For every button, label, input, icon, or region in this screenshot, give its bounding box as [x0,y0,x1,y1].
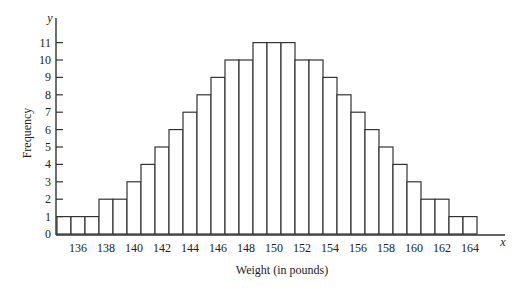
histogram-bar [379,147,393,234]
histogram-bar [141,164,155,234]
histogram-bar [253,43,267,234]
x-tick-label: 156 [349,241,367,255]
x-tick-label: 142 [153,241,171,255]
x-axis-title: Weight (in pounds) [236,263,328,277]
histogram-bar [337,95,351,234]
histogram-bar [365,130,379,234]
histogram-bar [281,43,295,234]
histogram-chart: 01234567891011 1361381401421441461481501… [0,0,528,293]
histogram-bar [393,164,407,234]
histogram-bar [57,217,71,234]
x-axis-ticks: 1361381401421441461481501521541561581601… [69,241,479,255]
x-tick-label: 136 [69,241,87,255]
histogram-bar [421,199,435,234]
x-tick-label: 154 [321,241,339,255]
histogram-bar [323,77,337,234]
y-tick-label: 8 [45,88,51,102]
y-tick-label: 9 [45,70,51,84]
y-tick-label: 3 [45,175,51,189]
y-tick-label: 11 [39,36,51,50]
x-tick-label: 148 [237,241,255,255]
y-axis-ticks: 01234567891011 [39,36,63,241]
histogram-bar [99,199,113,234]
histogram-bar [351,112,365,234]
y-tick-label: 0 [45,227,51,241]
y-axis-title: Frequency [20,108,34,159]
histogram-bar [309,60,323,234]
histogram-bar [463,217,477,234]
y-tick-label: 10 [39,53,51,67]
y-tick-label: 1 [45,210,51,224]
y-tick-label: 5 [45,140,51,154]
x-tick-label: 158 [377,241,395,255]
histogram-bar [449,217,463,234]
histogram-bar [225,60,239,234]
histogram-bar [407,182,421,234]
histogram-bar [295,60,309,234]
x-axis-variable-label: x [499,235,506,249]
x-tick-label: 152 [293,241,311,255]
x-tick-label: 138 [97,241,115,255]
histogram-bar [71,217,85,234]
y-tick-label: 2 [45,192,51,206]
histogram-bar [267,43,281,234]
histogram-bar [169,130,183,234]
x-tick-label: 162 [433,241,451,255]
x-tick-label: 164 [461,241,479,255]
x-tick-label: 144 [181,241,199,255]
histogram-bar [435,199,449,234]
y-tick-label: 4 [45,157,51,171]
histogram-bar [113,199,127,234]
histogram-bar [183,112,197,234]
x-tick-label: 160 [405,241,423,255]
histogram-bar [155,147,169,234]
histogram-bar [127,182,141,234]
x-tick-label: 140 [125,241,143,255]
histogram-bar [211,77,225,234]
x-tick-label: 150 [265,241,283,255]
histogram-bar [239,60,253,234]
y-tick-label: 7 [45,105,51,119]
y-axis-variable-label: y [46,11,53,25]
histogram-bar [85,217,99,234]
histogram-bar [197,95,211,234]
histogram-bars [57,43,477,234]
y-tick-label: 6 [45,123,51,137]
x-tick-label: 146 [209,241,227,255]
